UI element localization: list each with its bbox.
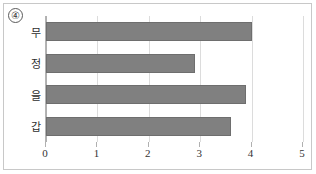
figure-number-marker: ④: [8, 8, 23, 23]
x-tick-label: 4: [239, 147, 263, 159]
x-tick-label: 5: [290, 147, 314, 159]
bar: [46, 54, 195, 73]
y-category-label: 무: [31, 24, 41, 40]
x-tick-label: 2: [136, 147, 160, 159]
bar: [46, 22, 252, 41]
y-category-label: 정: [31, 55, 41, 71]
gridline-x-5: [303, 16, 304, 142]
bar-row: 갑: [46, 117, 302, 136]
bar-row: 을: [46, 85, 302, 104]
y-category-label: 갑: [31, 118, 41, 134]
x-tick-label: 0: [33, 147, 57, 159]
plot-area: 갑을정무: [45, 16, 302, 142]
bar-row: 정: [46, 54, 302, 73]
chart-screenshot: ④ 갑을정무 012345: [0, 0, 316, 174]
x-tick-label: 3: [187, 147, 211, 159]
y-category-label: 을: [31, 87, 41, 103]
bar-row: 무: [46, 22, 302, 41]
bar: [46, 117, 231, 136]
bar: [46, 85, 246, 104]
bar-chart: 갑을정무 012345: [25, 11, 310, 163]
x-tick-label: 1: [84, 147, 108, 159]
